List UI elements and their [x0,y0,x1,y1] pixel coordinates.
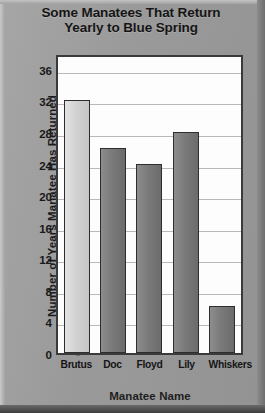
page-edge-highlight-left [0,0,5,413]
y-axis-tick-labels: 04812162024283236 [24,55,52,355]
bar-brutus [64,100,90,353]
x-axis-tick-label: Lily [172,359,202,375]
bar-floyd [136,164,162,353]
x-axis-title: Manatee Name [56,390,244,402]
y-axis-tick-label: 24 [24,160,52,172]
y-axis-tick-label: 12 [24,254,52,266]
x-axis-tick-label: Doc [98,359,128,375]
y-axis-tick-label: 36 [24,65,52,77]
x-axis-tick-label: Floyd [135,359,165,375]
x-axis-tick-labels: BrutusDocFloydLilyWhiskers [56,359,243,375]
y-axis-tick-label: 20 [24,191,52,203]
chart-title: Some Manatees That Return Yearly to Blue… [12,5,250,35]
bar-whiskers [209,306,235,353]
chart-title-line-1: Some Manatees That Return [12,5,250,20]
y-axis-tick-label: 32 [24,96,52,108]
x-axis-tick-label: Whiskers [209,359,239,375]
chart-title-line-2: Yearly to Blue Spring [12,20,250,35]
x-axis-tick-label: Brutus [61,359,91,375]
y-axis-tick-label: 16 [24,223,52,235]
chart-page: Some Manatees That Return Yearly to Blue… [0,0,265,413]
bar-doc [100,148,126,353]
bar-lily [173,132,199,353]
bar-series [58,57,241,353]
y-axis-tick-label: 8 [24,286,52,298]
page-edge-highlight-top [0,0,265,4]
y-axis-tick-label: 28 [24,128,52,140]
y-axis-tick-label: 4 [24,317,52,329]
y-axis-tick-label: 0 [24,349,52,361]
plot-area [56,55,243,355]
page-edge-shadow-right [257,0,265,413]
page-edge-shadow-bottom [0,405,265,413]
